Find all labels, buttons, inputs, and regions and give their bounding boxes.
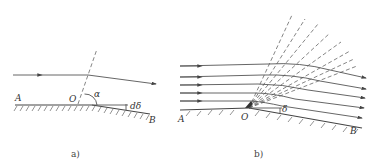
label-A: A <box>177 114 185 124</box>
label-A: A <box>14 93 22 103</box>
label-O: O <box>69 94 77 104</box>
figure-b: A O δ B b) <box>177 15 366 159</box>
wall-hatching <box>14 106 149 120</box>
figure-a: A O α dδ B a) <box>13 49 156 159</box>
wall-downstream <box>249 108 362 128</box>
wall-downstream <box>92 105 150 114</box>
label-B: B <box>148 115 156 125</box>
expansion-diagrams: A O α dδ B a) <box>0 0 380 164</box>
label-alpha: α <box>94 89 100 99</box>
label-B: B <box>349 126 357 136</box>
expansion-fan <box>249 15 357 108</box>
wall-upstream <box>180 108 249 110</box>
caption-a: a) <box>71 149 80 159</box>
label-d-delta: dδ <box>130 101 141 111</box>
label-O: O <box>241 112 249 122</box>
streamline-out <box>88 75 156 84</box>
caption-b: b) <box>254 149 263 159</box>
label-delta: δ <box>282 104 287 114</box>
